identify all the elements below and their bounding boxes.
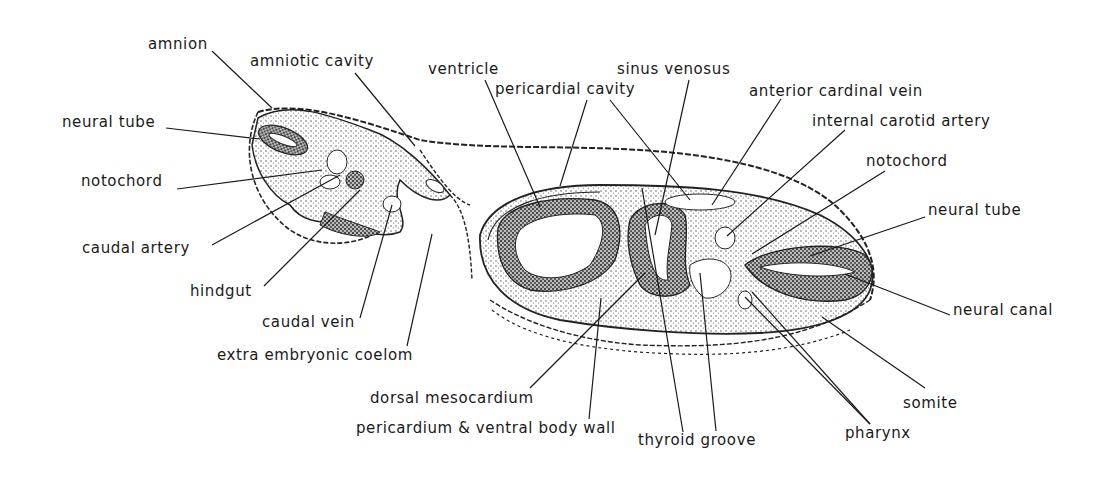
leader-line-somite bbox=[822, 317, 925, 388]
label-neural-canal: neural canal bbox=[953, 302, 1053, 318]
leader-line-anterior-cardinal-vein bbox=[712, 99, 781, 205]
label-caudal-vein: caudal vein bbox=[262, 314, 355, 330]
leader-line-ventricle bbox=[485, 80, 540, 207]
label-dorsal-mesocardium: dorsal mesocardium bbox=[370, 390, 534, 406]
label-pericardial-cavity: pericardial cavity bbox=[495, 81, 635, 97]
label-pericardium-ventral-body-wall: pericardium & ventral body wall bbox=[356, 420, 616, 436]
label-pharynx: pharynx bbox=[845, 425, 911, 441]
label-internal-carotid-artery: internal carotid artery bbox=[812, 113, 990, 129]
label-notochord-left: notochord bbox=[81, 173, 163, 189]
label-amnion: amnion bbox=[148, 36, 208, 52]
label-neural-tube-right: neural tube bbox=[928, 202, 1021, 218]
label-thyroid-groove: thyroid groove bbox=[638, 432, 756, 448]
label-caudal-artery: caudal artery bbox=[82, 240, 190, 256]
label-extraembryonic-coelom: extra embryonic coelom bbox=[217, 347, 413, 363]
label-hindgut: hindgut bbox=[190, 283, 252, 299]
label-sinus-venosus: sinus venosus bbox=[617, 61, 730, 77]
label-somite: somite bbox=[903, 395, 957, 411]
label-notochord-right: notochord bbox=[866, 153, 948, 169]
label-ventricle: ventricle bbox=[428, 61, 499, 77]
label-neural-tube-left: neural tube bbox=[62, 114, 155, 130]
label-anterior-cardinal-vein: anterior cardinal vein bbox=[749, 83, 923, 99]
leader-line-pericardial-cavity bbox=[560, 100, 587, 186]
figure-canvas: amnionamniotic cavityneural tubenotochor… bbox=[0, 0, 1117, 481]
leader-line-neural-tube-left bbox=[166, 128, 260, 139]
leader-line-extraembryonic-coelom bbox=[407, 234, 432, 346]
label-amniotic-cavity: amniotic cavity bbox=[250, 53, 374, 69]
